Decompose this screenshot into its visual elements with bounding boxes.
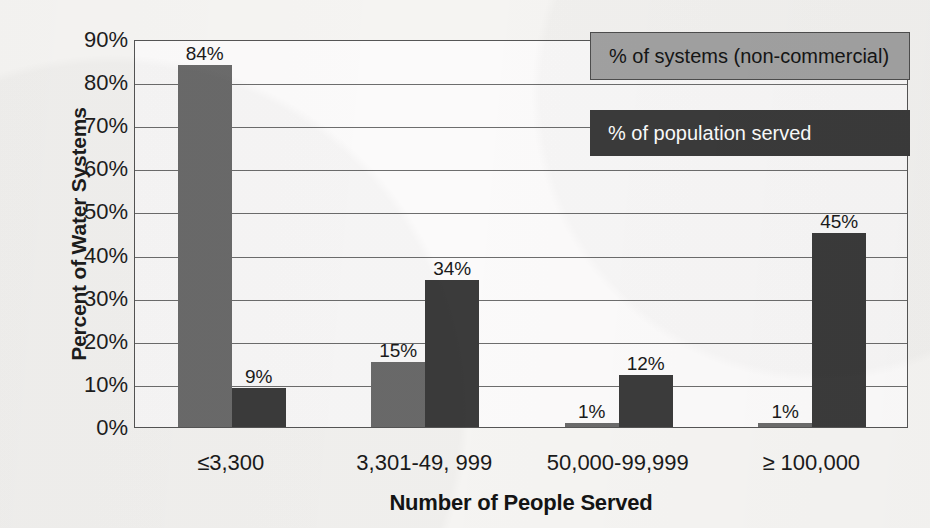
bar	[178, 65, 232, 427]
bar-data-label: 84%	[186, 44, 224, 63]
bar	[565, 423, 619, 427]
bar-series-group: 84%9%15%34%1%12%1%45%	[135, 41, 907, 427]
bar	[619, 375, 673, 427]
bar-data-label: 1%	[772, 402, 799, 421]
x-axis-title: Number of People Served	[134, 490, 908, 516]
y-axis-tick-label: 40%	[52, 245, 128, 267]
x-axis-category-labels: ≤3,3003,301-49, 99950,000-99,999≥ 100,00…	[134, 452, 908, 486]
y-axis-tick-label: 60%	[52, 158, 128, 180]
y-axis-tick-label: 20%	[52, 331, 128, 353]
legend-label-population: % of population served	[608, 122, 811, 145]
bar-data-label: 12%	[627, 354, 665, 373]
bar	[812, 233, 866, 427]
y-axis-tick-label: 30%	[52, 288, 128, 310]
bar-data-label: 45%	[820, 212, 858, 231]
x-axis-category-label: 50,000-99,999	[547, 452, 689, 474]
y-axis-tick-label: 0%	[52, 417, 128, 439]
bar	[758, 423, 812, 427]
y-axis-tick-label: 10%	[52, 374, 128, 396]
bar-chart: Percent of Water Systems 0%10%20%30%40%5…	[0, 0, 930, 528]
bar	[425, 280, 479, 427]
bar-data-label: 9%	[245, 367, 272, 386]
bar	[371, 362, 425, 427]
bar-data-label: 34%	[433, 259, 471, 278]
bar-data-label: 1%	[578, 402, 605, 421]
legend-item-systems: % of systems (non-commercial)	[590, 32, 910, 80]
bar-data-label: 15%	[379, 341, 417, 360]
legend-label-systems: % of systems (non-commercial)	[609, 45, 889, 68]
x-axis-category-label: ≥ 100,000	[762, 452, 860, 474]
plot-area: 84%9%15%34%1%12%1%45%	[134, 40, 908, 428]
y-axis-tick-label: 80%	[52, 72, 128, 94]
x-axis-category-label: ≤3,300	[197, 452, 264, 474]
x-axis-category-label: 3,301-49, 999	[356, 452, 492, 474]
y-axis-tick-labels: 0%10%20%30%40%50%60%70%80%90%	[46, 0, 128, 528]
legend-item-population: % of population served	[590, 110, 910, 156]
bar	[232, 388, 286, 427]
y-axis-tick-label: 70%	[52, 115, 128, 137]
y-axis-tick-label: 50%	[52, 201, 128, 223]
y-axis-tick-label: 90%	[52, 29, 128, 51]
